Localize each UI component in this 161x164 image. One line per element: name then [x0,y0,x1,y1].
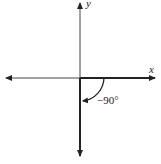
coordinate-diagram: x y −90° [0,0,161,164]
x-axis-label: x [148,63,154,75]
angle-label: −90° [97,94,119,106]
y-axis-label: y [85,0,91,9]
